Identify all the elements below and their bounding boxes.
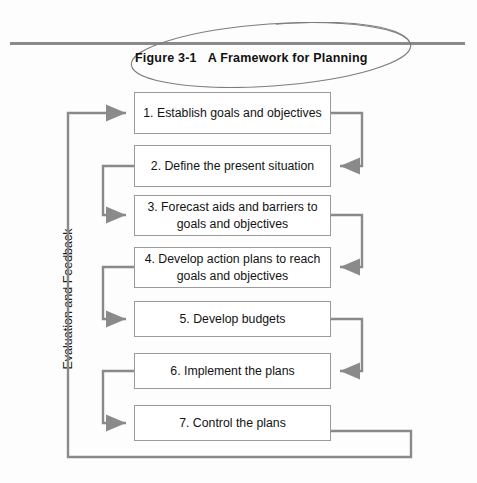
process-box-2[interactable]: 2. Define the present situation (134, 145, 331, 187)
process-box-6-label: 6. Implement the plans (170, 363, 294, 379)
process-box-7-label: 7. Control the plans (179, 415, 286, 431)
wire-5-to-6 (331, 319, 362, 371)
process-box-7[interactable]: 7. Control the plans (134, 405, 331, 441)
process-box-6[interactable]: 6. Implement the plans (134, 353, 331, 389)
process-box-1-label: 1. Establish goals and objectives (143, 105, 321, 121)
process-box-3[interactable]: 3. Forecast aids and barriers to goals a… (134, 195, 331, 236)
process-box-2-label: 2. Define the present situation (151, 158, 314, 174)
process-box-5-label: 5. Develop budgets (180, 311, 286, 327)
process-box-1[interactable]: 1. Establish goals and objectives (134, 92, 331, 134)
wire-4-to-5 (103, 267, 134, 319)
process-box-3-label: 3. Forecast aids and barriers to goals a… (143, 199, 322, 232)
wire-1-to-2 (331, 113, 362, 166)
figure-page: Figure 3-1A Framework for Planning Evalu… (0, 0, 477, 483)
process-box-5[interactable]: 5. Develop budgets (134, 301, 331, 337)
wire-3-to-4 (331, 215, 362, 267)
process-box-4[interactable]: 4. Develop action plans to reach goals a… (134, 247, 331, 288)
wire-2-to-3 (103, 166, 134, 215)
process-box-4-label: 4. Develop action plans to reach goals a… (143, 251, 322, 284)
wire-6-to-7 (103, 371, 134, 423)
